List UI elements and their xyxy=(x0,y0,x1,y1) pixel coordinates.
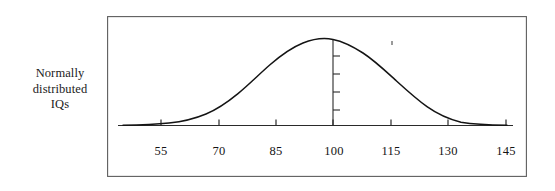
x-tick-label-100: 100 xyxy=(314,144,354,159)
caption-line-1: Normally xyxy=(10,66,110,82)
figure-canvas: Normally distributed IQs xyxy=(0,0,555,191)
x-tick-label-85: 85 xyxy=(256,144,296,159)
mean-marker-group xyxy=(333,40,340,126)
scan-artifact-dot xyxy=(391,41,393,45)
caption-line-3: IQs xyxy=(10,97,110,113)
x-tick-label-145: 145 xyxy=(486,144,526,159)
bell-curve-path xyxy=(123,39,507,126)
caption-line-2: distributed xyxy=(10,82,110,98)
x-tick-label-130: 130 xyxy=(428,144,468,159)
y-axis-caption: Normally distributed IQs xyxy=(10,66,110,113)
x-tick-label-115: 115 xyxy=(371,144,411,159)
plot-frame: 55 70 85 100 115 130 145 xyxy=(107,16,527,177)
x-tick-label-70: 70 xyxy=(199,144,239,159)
x-tick-label-55: 55 xyxy=(141,144,181,159)
